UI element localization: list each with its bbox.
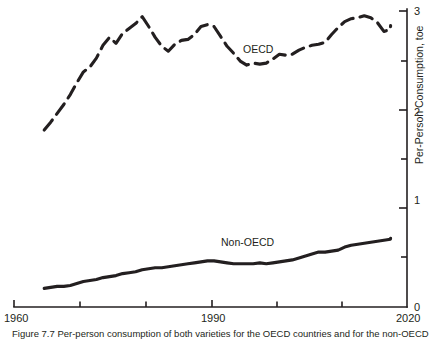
figure-caption: Figure 7.7 Per-person consumption of bot… xyxy=(12,328,437,339)
series-line-non-oecd xyxy=(44,238,390,288)
y-axis-tick-label-1: 1 xyxy=(414,194,420,206)
y-axis-tick-label-2: 2 xyxy=(414,106,420,118)
y-axis-tick-label-0: 0 xyxy=(414,301,420,313)
x-axis-tick-label-2020: 2020 xyxy=(396,312,420,324)
series-line-oecd xyxy=(44,16,390,130)
series-annotation-oecd: OECD xyxy=(243,43,273,55)
y-axis-tick-label-3: 3 xyxy=(414,5,420,17)
series-annotation-non-oecd: Non-OECD xyxy=(221,236,274,248)
x-axis-tick-label-1960: 1960 xyxy=(4,312,28,324)
x-axis-tick-label-1990: 1990 xyxy=(201,312,225,324)
